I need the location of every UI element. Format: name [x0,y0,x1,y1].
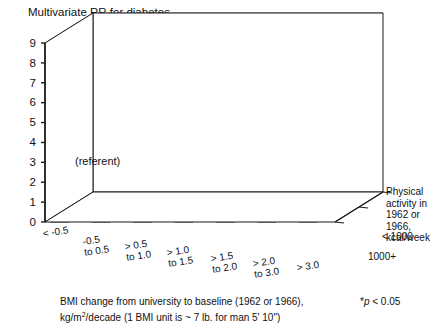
plot-canvas: ********** [0,0,440,333]
x-label-3: > 1.0 to 1.5 [166,244,194,269]
pvalue-note: *p < 0.05 [360,296,400,307]
pvalue-rest: < 0.05 [369,296,400,307]
caption-line-2: kg/m2/decade (1 BMI unit is ~ 7 lb. for … [60,309,303,325]
caption-units-suffix: /decade (1 BMI unit is ~ 7 lb. for man 5… [86,312,281,323]
caption-line-1: BMI change from university to baseline (… [60,296,303,309]
caption-units-prefix: kg/m [60,312,82,323]
x-label-5: > 2.0 to 3.0 [252,255,280,280]
x-label-2: > 0.5 to 1.0 [124,238,152,263]
legend-title-line1: Physical [386,186,440,198]
x-label-1: -0.5 to 0.5 [82,233,110,258]
referent-annotation-label: (referent) [75,155,120,167]
depth-label-1000plus: 1000+ [368,251,396,262]
axis-layer [41,13,392,223]
chart-caption: BMI change from university to baseline (… [60,296,303,324]
legend-title: Physical activity in 1962 or 1966, kcal/… [386,186,440,244]
legend-title-line2: activity in [386,198,440,210]
legend-title-line3: 1962 or 1966, [386,209,440,232]
chart-root: Multivariate RR for diabetes 9 8 7 6 5 4… [0,0,440,333]
x-label-4: > 1.5 to 2.0 [210,250,238,275]
legend-title-line4: kcal/week [386,232,440,244]
